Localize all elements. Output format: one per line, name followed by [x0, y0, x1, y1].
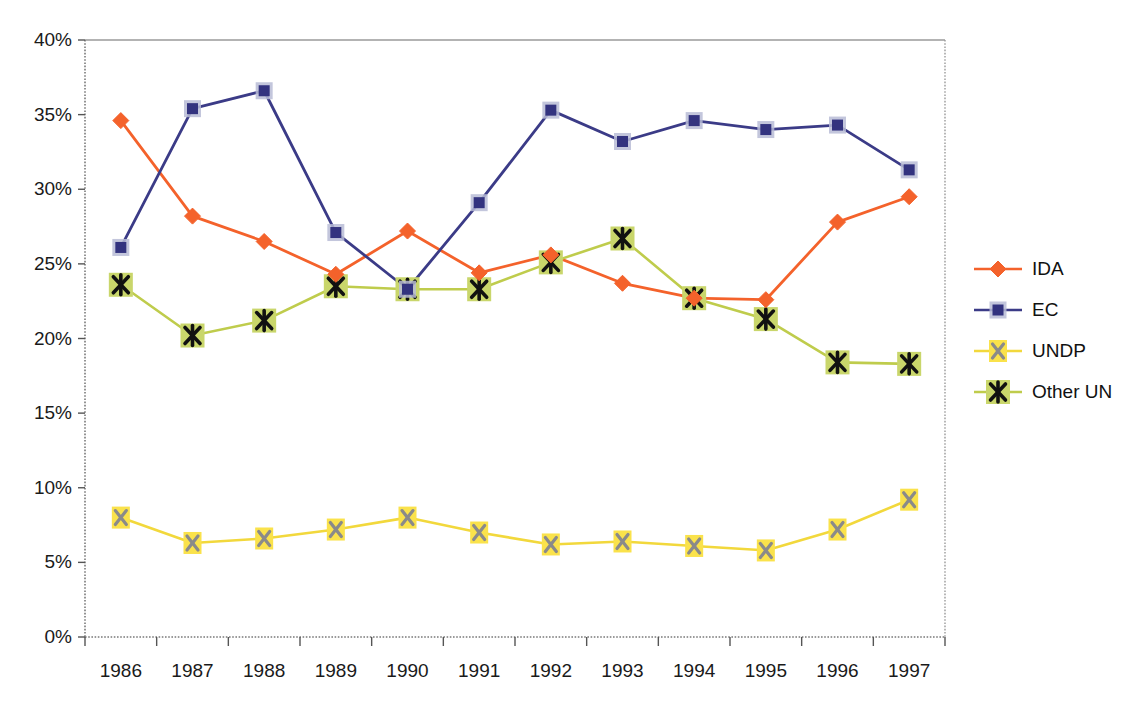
legend-marker-icon: [972, 256, 1024, 282]
line-chart-plot: [0, 0, 1122, 710]
data-point-marker-square: [259, 85, 270, 96]
data-point-marker-square: [115, 242, 126, 253]
legend-swatch-undp: [972, 338, 1024, 364]
y-axis-tick-label: 20%: [8, 328, 72, 350]
legend-swatch-ida: [972, 256, 1024, 282]
legend-swatch-other-un: [972, 379, 1024, 405]
x-axis-tick-label: 1993: [601, 660, 643, 682]
legend-swatch-ec: [972, 297, 1024, 323]
series-line-other-un: [121, 239, 909, 364]
legend-marker-icon: [972, 338, 1024, 364]
data-point-marker-square: [832, 120, 843, 131]
y-axis-tick-label: 40%: [8, 29, 72, 51]
y-axis-tick-label: 15%: [8, 402, 72, 424]
legend-label-ida: IDA: [1032, 258, 1064, 280]
data-point-marker-square: [402, 284, 413, 295]
series-line-ida: [121, 121, 909, 300]
y-axis-tick-label: 10%: [8, 477, 72, 499]
x-axis-tick-label: 1992: [530, 660, 572, 682]
series-markers-other-un: [109, 227, 921, 376]
chart-canvas: 0%5%10%15%20%25%30%35%40% 19861987198819…: [0, 0, 1122, 710]
x-axis-tick-label: 1986: [100, 660, 142, 682]
y-axis-tick-label: 0%: [8, 626, 72, 648]
x-axis-tick-label: 1994: [673, 660, 715, 682]
y-axis-tick-label: 35%: [8, 104, 72, 126]
legend-item-other-un[interactable]: Other UN: [972, 371, 1117, 412]
legend-marker-icon: [972, 297, 1024, 323]
legend-marker: [986, 380, 1010, 404]
legend-marker: [989, 340, 1007, 362]
data-point-marker-square: [617, 136, 628, 147]
x-axis-tick-label: 1990: [386, 660, 428, 682]
data-point-marker-square: [545, 105, 556, 116]
y-axis-tick-label: 5%: [8, 551, 72, 573]
legend-marker: [990, 261, 1006, 277]
legend-label-other-un: Other UN: [1032, 381, 1112, 403]
series-line-ec: [121, 91, 909, 290]
y-axis-tick-label: 25%: [8, 253, 72, 275]
series-markers-ida: [113, 113, 917, 308]
data-point-marker-square: [904, 164, 915, 175]
legend-marker: [990, 301, 1007, 318]
legend-item-ida[interactable]: IDA: [972, 248, 1117, 289]
data-point-marker-diamond: [990, 261, 1006, 277]
legend-marker-icon: [972, 379, 1024, 405]
series-lines: [121, 91, 909, 551]
x-axis-tick-label: 1987: [171, 660, 213, 682]
legend-item-undp[interactable]: UNDP: [972, 330, 1117, 371]
x-axis-tick-label: 1995: [745, 660, 787, 682]
series-line-undp: [121, 500, 909, 551]
series-markers-undp: [112, 489, 918, 562]
series-markers: [109, 82, 921, 561]
data-point-marker-square: [760, 124, 771, 135]
data-point-marker-square: [689, 115, 700, 126]
data-point-marker-diamond: [615, 275, 631, 291]
data-point-marker-square: [330, 227, 341, 238]
x-axis-tick-label: 1991: [458, 660, 500, 682]
data-point-marker-diamond: [901, 189, 917, 205]
x-axis-tick-label: 1997: [888, 660, 930, 682]
chart-legend: IDA EC UNDP Other UN: [972, 248, 1117, 412]
data-point-marker-square: [187, 103, 198, 114]
x-axis-tick-label: 1988: [243, 660, 285, 682]
data-point-marker-square: [474, 197, 485, 208]
legend-item-ec[interactable]: EC: [972, 289, 1117, 330]
data-point-marker-diamond: [400, 223, 416, 239]
x-axis-tick-label: 1996: [816, 660, 858, 682]
legend-label-ec: EC: [1032, 299, 1058, 321]
x-axis-tick-label: 1989: [315, 660, 357, 682]
y-axis-tick-label: 30%: [8, 178, 72, 200]
data-point-marker-diamond: [256, 233, 272, 249]
legend-label-undp: UNDP: [1032, 340, 1086, 362]
data-point-marker-square: [993, 304, 1004, 315]
